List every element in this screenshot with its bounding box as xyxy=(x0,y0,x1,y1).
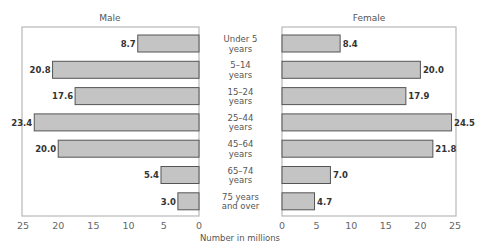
female-panel-title: Female xyxy=(353,13,386,23)
female-value-label: 21.8 xyxy=(435,144,456,154)
category-label: Under 5years xyxy=(224,34,258,54)
male-value-label: 3.0 xyxy=(161,197,176,207)
male-bar xyxy=(161,167,199,184)
female-value-label: 24.5 xyxy=(454,118,475,128)
female-bar xyxy=(282,35,340,52)
male-bar xyxy=(34,114,199,131)
category-label: 65–74years xyxy=(228,166,254,186)
male-value-label: 17.6 xyxy=(52,91,73,101)
female-bar xyxy=(282,167,330,184)
category-label: 45–64years xyxy=(228,139,254,159)
category-label: 25–44years xyxy=(228,113,254,132)
female-bar xyxy=(282,193,315,210)
female-bar xyxy=(282,140,433,157)
female-value-label: 4.7 xyxy=(317,197,332,207)
male-value-label: 23.4 xyxy=(11,118,32,128)
female-bar xyxy=(282,114,452,131)
male-x-tick-label: 5 xyxy=(161,220,167,231)
population-chart: Male Female 8.720.817.623.420.05.43.08.4… xyxy=(0,0,477,249)
female-value-label: 7.0 xyxy=(333,170,348,180)
male-bar xyxy=(53,61,199,78)
male-x-tick-label: 20 xyxy=(52,220,64,231)
male-x-tick-label: 15 xyxy=(87,220,99,231)
female-value-label: 20.0 xyxy=(423,65,444,75)
x-axis-title: Number in millions xyxy=(200,233,281,243)
male-x-tick-label: 25 xyxy=(17,220,29,231)
category-label: 75 yearsand over xyxy=(222,192,260,212)
male-bar xyxy=(58,140,199,157)
male-value-label: 20.0 xyxy=(35,144,56,154)
male-value-label: 20.8 xyxy=(30,65,51,75)
male-bar xyxy=(138,35,199,52)
male-bar xyxy=(75,88,199,105)
female-bar xyxy=(282,61,420,78)
male-panel-title: Male xyxy=(99,13,121,23)
male-x-tick-label: 0 xyxy=(196,220,202,231)
category-label: 5–14years xyxy=(229,60,253,80)
female-x-tick-label: 5 xyxy=(314,220,320,231)
male-x-tick-label: 10 xyxy=(123,220,135,231)
female-x-tick-label: 0 xyxy=(279,220,285,231)
male-bar xyxy=(178,193,199,210)
female-x-tick-label: 15 xyxy=(380,220,392,231)
female-bar xyxy=(282,88,406,105)
category-label: 15–24years xyxy=(228,87,254,107)
female-value-label: 17.9 xyxy=(408,91,429,101)
female-x-tick-label: 10 xyxy=(345,220,357,231)
male-value-label: 5.4 xyxy=(144,170,159,180)
female-x-tick-label: 20 xyxy=(414,220,426,231)
female-value-label: 8.4 xyxy=(343,39,358,49)
female-x-tick-label: 25 xyxy=(449,220,461,231)
male-value-label: 8.7 xyxy=(121,39,136,49)
